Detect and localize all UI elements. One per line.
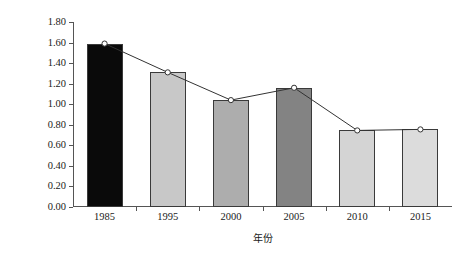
trend-line-layer — [73, 22, 452, 207]
y-tick-label: 1.80 — [30, 17, 66, 27]
y-tick-mark — [69, 186, 73, 187]
y-tick-mark — [69, 207, 73, 208]
y-tick-mark — [69, 22, 73, 23]
y-tick-label: 1.40 — [30, 58, 66, 68]
bar-1995 — [150, 72, 186, 207]
bar-2010 — [339, 130, 375, 207]
bar-2005 — [276, 88, 312, 207]
x-axis-tick-labels: 198519952000200520102015 — [73, 210, 452, 226]
y-tick-label: 0.20 — [30, 181, 66, 191]
x-tick-label: 2010 — [327, 210, 387, 224]
bar-2000 — [213, 100, 249, 207]
bar-1985 — [87, 44, 123, 207]
y-axis-tick-labels: 0.000.200.400.600.801.001.201.401.601.80 — [26, 0, 66, 272]
x-tick-label: 2005 — [264, 210, 324, 224]
y-tick-mark — [69, 84, 73, 85]
runoff-bar-chart: 模拟径流量/(亿m³) 0.000.200.400.600.801.001.20… — [0, 0, 458, 272]
y-tick-label: 0.00 — [30, 202, 66, 212]
plot-area — [73, 22, 452, 207]
y-tick-mark — [69, 43, 73, 44]
y-axis-line — [73, 22, 74, 207]
x-tick-label: 2015 — [390, 210, 450, 224]
x-axis-title: 年份 — [73, 230, 452, 245]
y-tick-mark — [69, 166, 73, 167]
y-tick-label: 0.60 — [30, 140, 66, 150]
y-tick-mark — [69, 63, 73, 64]
y-tick-label: 0.80 — [30, 120, 66, 130]
x-tick-label: 1985 — [75, 210, 135, 224]
y-tick-label: 1.20 — [30, 79, 66, 89]
y-tick-label: 1.60 — [30, 38, 66, 48]
x-tick-label: 1995 — [138, 210, 198, 224]
bar-2015 — [402, 129, 438, 207]
y-tick-mark — [69, 145, 73, 146]
y-tick-mark — [69, 125, 73, 126]
y-tick-label: 0.40 — [30, 161, 66, 171]
x-tick-label: 2000 — [201, 210, 261, 224]
y-tick-label: 1.00 — [30, 99, 66, 109]
y-tick-mark — [69, 104, 73, 105]
